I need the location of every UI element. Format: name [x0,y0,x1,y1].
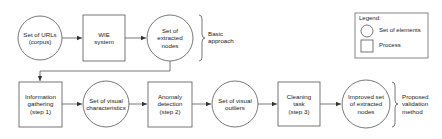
label-urls: Set of URLs (corpus) [18,28,62,48]
brace-basic [199,15,205,61]
brace-label-basic: Basic approach [208,30,234,45]
legend-circle-icon [361,25,373,37]
edge-extracted-info [40,61,170,81]
label-info: Information gathering (step 1) [19,92,62,116]
brace-label-proposed: Proposed validation method [402,93,429,115]
legend-item-box: Process [379,42,401,48]
legend-box-icon [361,40,373,52]
label-visual-chars: Set of visual characteristics [82,95,130,113]
legend-title: Legend: [359,15,381,21]
label-wie: WIE system [83,28,125,48]
label-outliers: Set of visual outliers [212,95,258,113]
brace-proposed [392,82,398,127]
label-improved: Improved set of extracted nodes [342,92,390,116]
label-cleaning: Cleaning task (step 3) [278,92,320,116]
legend-item-circle: Set of elements [379,27,421,33]
label-extracted: Set of extracted nodes [147,26,193,50]
label-anomaly: Anomaly detection (step 2) [148,92,192,116]
